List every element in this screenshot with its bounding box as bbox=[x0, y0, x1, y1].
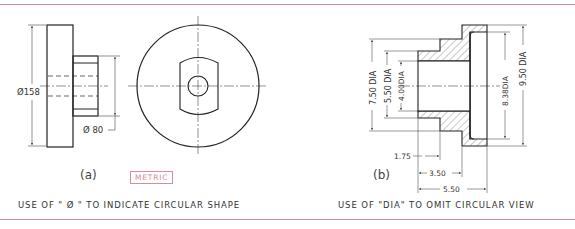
dim-hub-diameter: Ø 80 bbox=[83, 125, 103, 135]
panel-a-front-view bbox=[128, 16, 268, 156]
panel-b-caption: USE OF "DIA" TO OMIT CIRCULAR VIEW bbox=[338, 200, 535, 210]
dim-outer-diameter: Ø158 bbox=[17, 87, 40, 97]
technical-drawing: Ø158 Ø 80 bbox=[0, 0, 575, 229]
dim-4-00-dia: 4.00DIA bbox=[397, 70, 406, 101]
panel-b-tag: (b) bbox=[373, 168, 390, 182]
dim-1-75: 1.75 bbox=[394, 152, 411, 161]
dim-7-50-dia: 7.50 DIA bbox=[369, 70, 378, 105]
panel-a-side-view bbox=[28, 25, 120, 147]
dim-9-50-dia: 9.50 DIA bbox=[519, 51, 528, 86]
metric-badge: METRIC bbox=[130, 171, 173, 184]
dim-8-38-dia: 8.38DIA bbox=[501, 75, 510, 106]
panel-b-section-view bbox=[400, 25, 500, 146]
panel-a-caption: USE OF " Ø " TO INDICATE CIRCULAR SHAPE bbox=[18, 200, 240, 210]
dim-5-50-dia: 5.50 DIA bbox=[384, 68, 393, 103]
dim-5-50: 5.50 bbox=[443, 185, 460, 194]
dim-3-50: 3.50 bbox=[429, 169, 446, 178]
panel-a-tag: (a) bbox=[80, 168, 97, 182]
